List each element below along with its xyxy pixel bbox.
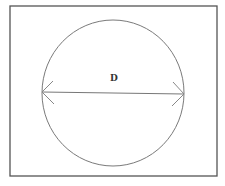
frame-border — [10, 6, 217, 176]
diagram-canvas — [0, 0, 225, 186]
diameter-label: D — [110, 73, 118, 83]
